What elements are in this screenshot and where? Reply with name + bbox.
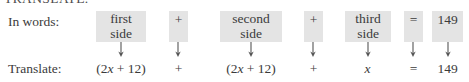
words-cell-third-side: third side: [345, 11, 391, 42]
words-cell-second-side: second side: [220, 11, 282, 42]
down-arrow-icon: [408, 42, 418, 57]
expression-text: +: [310, 61, 318, 76]
down-arrow-icon: [246, 42, 256, 57]
down-arrow-icon: [308, 42, 318, 57]
down-arrow-icon: [363, 42, 373, 57]
words-cell-plus-1: +: [169, 11, 188, 42]
expression-total: 149: [432, 61, 463, 77]
words-line: +: [308, 12, 319, 28]
down-arrow-icon: [116, 42, 126, 57]
expression-text: (2x + 12): [226, 61, 276, 76]
words-line: side: [349, 27, 387, 42]
expression-plus-1: +: [166, 61, 191, 77]
words-line: first: [100, 12, 142, 27]
expression-text: (2x + 12): [96, 61, 146, 76]
words-line: side: [100, 27, 142, 42]
row-label-in-words: In words:: [8, 14, 59, 30]
expression-equals: =: [401, 61, 426, 77]
expression-text: 149: [437, 61, 457, 76]
words-line: second: [224, 12, 278, 27]
words-cell-total: 149: [432, 11, 463, 42]
down-arrow-icon: [173, 42, 183, 57]
expression-text: +: [175, 61, 183, 76]
expression-plus-2: +: [301, 61, 326, 77]
words-line: =: [408, 12, 419, 28]
expression-text: =: [410, 61, 418, 76]
words-cell-first-side: first side: [96, 11, 146, 42]
expression-third-side: x: [355, 61, 380, 77]
words-cell-equals: =: [404, 11, 423, 42]
expression-first-side: (2x + 12): [86, 61, 156, 77]
expression-second-side: (2x + 12): [216, 61, 286, 77]
words-line: +: [173, 12, 184, 28]
words-line: 149: [436, 12, 459, 28]
row-label-translate: Translate:: [8, 61, 62, 77]
words-line: side: [224, 27, 278, 42]
expression-text: x: [365, 61, 371, 76]
translate-figure: In words: Translate: first side (2x + 12…: [0, 0, 469, 82]
words-cell-plus-2: +: [304, 11, 323, 42]
down-arrow-icon: [443, 42, 453, 57]
words-line: third: [349, 12, 387, 27]
